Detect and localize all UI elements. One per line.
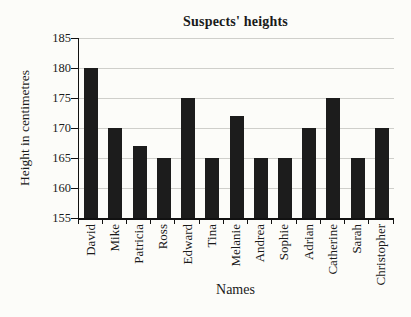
gridline-175 (79, 98, 394, 99)
x-tick-mark-12 (368, 220, 369, 224)
y-tick-mark-175 (71, 98, 78, 99)
bar-edward (181, 98, 195, 218)
y-tick-mark-185 (71, 38, 78, 39)
bar-adrian (302, 128, 316, 218)
y-tick-mark-165 (71, 158, 78, 159)
bar-chart-figure: Suspects' heights Height in centimetres … (0, 0, 411, 317)
y-tick-mark-180 (71, 68, 78, 69)
x-tick-mark-4 (174, 220, 175, 224)
x-tick-mark-2 (126, 220, 127, 224)
x-tick-mark-10 (320, 220, 321, 224)
gridline-185 (79, 38, 394, 39)
x-category-label-patricia: Patricia (132, 224, 145, 264)
y-tick-mark-170 (71, 128, 78, 129)
x-tick-mark-13 (393, 220, 394, 224)
x-category-label-ross: Ross (156, 224, 169, 249)
bar-ross (157, 158, 171, 218)
x-category-label-catherine: Catherine (326, 224, 339, 275)
x-category-label-tina: Tina (205, 224, 218, 247)
y-tick-mark-160 (71, 188, 78, 189)
x-category-label-sarah: Sarah (350, 224, 363, 254)
bar-melanie (230, 116, 244, 218)
x-category-label-christopher: Christopher (374, 224, 387, 285)
x-tick-mark-0 (78, 220, 79, 224)
x-category-label-david: David (84, 224, 97, 256)
x-tick-mark-3 (150, 220, 151, 224)
plot-area (78, 38, 394, 220)
gridline-180 (79, 68, 394, 69)
bar-andrea (254, 158, 268, 218)
y-tick-label-165: 165 (38, 151, 71, 165)
x-category-label-mike: Mike (108, 224, 121, 251)
y-tick-label-160: 160 (38, 181, 71, 195)
x-category-label-edward: Edward (181, 224, 194, 264)
x-tick-mark-5 (199, 220, 200, 224)
bar-david (84, 68, 98, 218)
x-tick-mark-9 (296, 220, 297, 224)
y-tick-label-155: 155 (38, 211, 71, 225)
x-category-label-sophie: Sophie (277, 224, 290, 260)
y-tick-label-185: 185 (38, 31, 71, 45)
x-category-label-andrea: Andrea (253, 224, 266, 262)
x-tick-mark-11 (344, 220, 345, 224)
bar-sophie (278, 158, 292, 218)
bar-sarah (351, 158, 365, 218)
y-tick-label-170: 170 (38, 121, 71, 135)
y-tick-label-180: 180 (38, 61, 71, 75)
x-tick-mark-6 (223, 220, 224, 224)
bar-mike (108, 128, 122, 218)
x-tick-mark-1 (102, 220, 103, 224)
x-category-label-adrian: Adrian (302, 224, 315, 260)
y-tick-mark-155 (71, 218, 78, 219)
x-category-label-melanie: Melanie (229, 224, 242, 267)
bar-christopher (375, 128, 389, 218)
bar-tina (205, 158, 219, 218)
x-axis-label: Names (78, 282, 393, 298)
y-tick-label-175: 175 (38, 91, 71, 105)
y-axis-label: Height in centimetres (17, 70, 33, 186)
bar-patricia (133, 146, 147, 218)
bar-catherine (326, 98, 340, 218)
chart-title: Suspects' heights (78, 14, 393, 30)
x-tick-mark-7 (247, 220, 248, 224)
x-tick-mark-8 (271, 220, 272, 224)
